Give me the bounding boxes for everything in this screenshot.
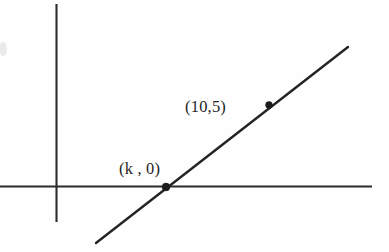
point-label-k-0: (k , 0) xyxy=(119,161,160,178)
point-label-10-5: (10,5) xyxy=(185,99,226,116)
scan-artifact-smudge xyxy=(0,42,7,56)
point-marker-k-0 xyxy=(162,183,170,191)
line-graph-svg xyxy=(0,0,389,252)
figure-canvas: (10,5) (k , 0) xyxy=(0,0,389,252)
plotted-line xyxy=(96,47,348,243)
point-marker-10-5 xyxy=(266,102,273,109)
